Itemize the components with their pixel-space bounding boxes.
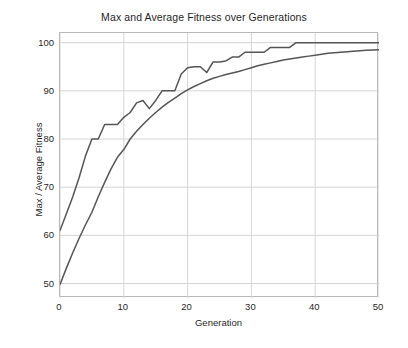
x-tick-label: 10 <box>103 301 143 312</box>
x-axis-label: Generation <box>59 317 378 328</box>
x-tick-label: 50 <box>358 301 398 312</box>
y-axis-label: Max / Average Fitness <box>33 70 44 270</box>
grid-lines <box>60 33 379 298</box>
data-lines <box>60 43 379 285</box>
chart-figure: Max and Average Fitness over Generations… <box>0 0 408 348</box>
x-tick-label: 40 <box>294 301 334 312</box>
series-line-2 <box>60 50 379 285</box>
series-line-1 <box>60 43 379 231</box>
x-tick-label: 20 <box>167 301 207 312</box>
y-tick-label: 50 <box>14 277 54 288</box>
x-tick-label: 0 <box>39 301 79 312</box>
y-tick-label: 100 <box>14 36 54 47</box>
x-tick-label: 30 <box>230 301 270 312</box>
plot-area <box>59 32 378 297</box>
plot-svg <box>60 33 379 298</box>
chart-title: Max and Average Fitness over Generations <box>0 11 408 23</box>
